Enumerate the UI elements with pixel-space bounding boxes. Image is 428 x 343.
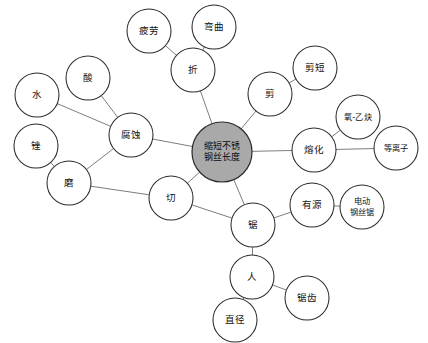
node-label-suan: 酸	[83, 72, 93, 83]
node-label-ren: 人	[247, 271, 257, 282]
node-ju[interactable]: 锯	[231, 203, 275, 247]
node-label-dengliziiii: 等离子	[384, 143, 409, 153]
node-label-dianddongju: 钢丝锯	[350, 207, 375, 217]
edge-qie-to-ju	[192, 205, 232, 218]
edge-mo-to-qie	[91, 186, 149, 195]
edge-fushi-to-suan	[101, 96, 118, 118]
edge-qie-to-center	[187, 172, 199, 183]
node-label-jian: 剪	[265, 88, 275, 99]
edge-zhe-to-wanqu	[203, 47, 205, 50]
node-dianddongju[interactable]: 电动钢丝锯	[340, 185, 384, 229]
node-label-ju: 锯	[248, 219, 258, 230]
node-zhijing[interactable]: 直径	[213, 298, 257, 342]
node-mo[interactable]: 磨	[47, 161, 91, 205]
edge-zhe-to-pilao	[165, 46, 176, 56]
node-jian[interactable]: 剪	[248, 72, 292, 116]
node-youyuan[interactable]: 有源	[290, 183, 334, 227]
concept-map-canvas: 缩短不锈钢丝长度疲劳弯曲折剪剪短水酸腐蚀锉磨切熔化氧-乙炔等离子锯有源电动钢丝锯…	[0, 0, 428, 343]
node-juchi[interactable]: 锯齿	[285, 276, 329, 320]
nodes-layer: 缩短不锈钢丝长度疲劳弯曲折剪剪短水酸腐蚀锉磨切熔化氧-乙炔等离子锯有源电动钢丝锯…	[14, 5, 418, 342]
node-dengliziiii[interactable]: 等离子	[374, 126, 418, 170]
node-label-qie: 切	[166, 192, 176, 203]
concept-map-graph: 缩短不锈钢丝长度疲劳弯曲折剪剪短水酸腐蚀锉磨切熔化氧-乙炔等离子锯有源电动钢丝锯…	[0, 0, 428, 343]
node-label-cuo: 锉	[31, 140, 41, 151]
node-label-zhe: 折	[188, 64, 198, 75]
edge-fushi-to-shui	[57, 104, 111, 127]
node-label-zhijing: 直径	[225, 314, 245, 325]
edge-zhe-to-center	[200, 91, 212, 124]
edge-fushi-to-mo	[86, 148, 113, 169]
edge-center-to-ju	[234, 180, 245, 205]
node-ren[interactable]: 人	[230, 255, 274, 299]
node-label-fushi: 腐蚀	[121, 129, 141, 140]
node-label-shui: 水	[32, 89, 42, 100]
node-label-youyuan: 有源	[302, 199, 322, 210]
node-label-pilao: 疲劳	[139, 25, 159, 36]
edge-jian-to-center	[241, 111, 256, 129]
node-label-mo: 磨	[64, 177, 74, 188]
node-center[interactable]: 缩短不锈钢丝长度	[192, 122, 252, 182]
node-qie[interactable]: 切	[149, 176, 193, 220]
node-ronghua[interactable]: 熔化	[292, 128, 336, 172]
edge-jian-to-jianduan	[289, 79, 296, 83]
node-label-wanqu: 弯曲	[204, 21, 224, 32]
node-wanqu[interactable]: 弯曲	[192, 5, 236, 49]
edge-center-to-ronghua	[252, 150, 292, 151]
node-fushi[interactable]: 腐蚀	[109, 113, 153, 157]
node-suan[interactable]: 酸	[66, 56, 110, 100]
edge-center-to-fushi	[153, 139, 193, 146]
node-yangyiquea[interactable]: 氧-乙炔	[336, 95, 380, 139]
edge-ronghua-to-dengliziiii	[336, 149, 374, 150]
node-label-ronghua: 熔化	[304, 144, 324, 155]
node-label-juchi: 锯齿	[297, 292, 317, 303]
node-shui[interactable]: 水	[15, 73, 59, 117]
node-jianduan[interactable]: 剪短	[293, 46, 337, 90]
node-label-jianduan: 剪短	[305, 62, 325, 73]
node-pilao[interactable]: 疲劳	[127, 9, 171, 53]
edge-ju-to-youyuan	[274, 212, 291, 218]
edge-ren-to-juchi	[273, 285, 287, 290]
edge-mo-to-cuo	[51, 162, 55, 166]
edge-ronghua-to-yangyiquea	[332, 130, 341, 137]
node-label-yangyiquea: 氧-乙炔	[344, 112, 372, 122]
node-label-center: 缩短不锈	[204, 140, 241, 151]
node-label-dianddongju: 电动	[354, 196, 370, 206]
node-label-center: 钢丝长度	[204, 151, 241, 162]
node-zhe[interactable]: 折	[171, 48, 215, 92]
node-cuo[interactable]: 锉	[14, 124, 58, 168]
